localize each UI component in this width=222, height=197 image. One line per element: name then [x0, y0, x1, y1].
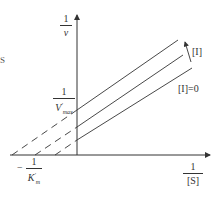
- x-intercept-label: 1 K′m: [26, 157, 42, 188]
- y-axis-label: 1 v: [60, 14, 72, 38]
- x-intercept-numerator: 1: [32, 157, 37, 167]
- km-subscript: m: [36, 179, 40, 185]
- y-intercept-denominator: V′max: [55, 100, 72, 118]
- increasing-inhibitor-arrow: [185, 42, 191, 62]
- y-intercept-label: 1 V′max: [53, 87, 75, 118]
- line-mid-inhibitor-dashed: [35, 127, 77, 155]
- inhibitor-arrow-label: [I]: [192, 47, 202, 57]
- prime-mark: ′: [61, 102, 62, 108]
- y-axis-label-numerator: 1: [64, 14, 69, 24]
- line-mid-inhibitor: [77, 55, 183, 127]
- fraction-bar: [53, 98, 75, 99]
- x-intercept-sign: −: [17, 163, 23, 173]
- prime-mark: ′: [35, 172, 36, 178]
- line-no-inhibitor: [77, 68, 192, 140]
- x-axis-label-denominator: [S]: [187, 175, 199, 186]
- x-axis-label-numerator: 1: [191, 162, 196, 172]
- line-high-inhibitor: [77, 40, 178, 110]
- km-symbol: K: [28, 172, 35, 183]
- fraction-bar: [60, 25, 72, 26]
- y-intercept-numerator: 1: [62, 87, 67, 97]
- fraction-bar: [183, 173, 203, 174]
- vmax-subscript: max: [63, 109, 73, 115]
- line-no-inhibitor-dashed: [55, 140, 77, 155]
- x-axis-label: 1 [S]: [183, 162, 203, 186]
- no-inhibitor-label: [I]=0: [178, 84, 199, 94]
- y-axis-label-denominator: v: [64, 27, 68, 38]
- x-intercept-denominator: K′m: [28, 170, 40, 188]
- fraction-bar: [26, 168, 42, 169]
